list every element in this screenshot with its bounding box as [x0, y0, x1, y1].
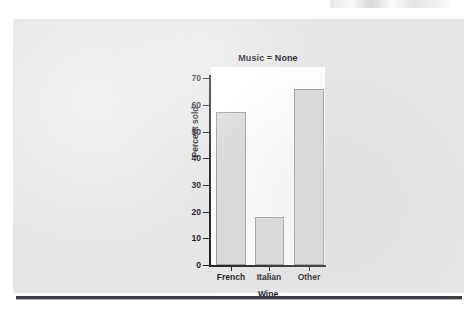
x-tick-mark-italian	[269, 267, 270, 271]
chart-title: Music = None	[211, 53, 325, 63]
horizontal-rule	[16, 296, 462, 299]
y-tick-mark-10	[203, 238, 209, 239]
y-tick-label-0: 0	[177, 261, 201, 270]
y-tick-mark-70	[203, 78, 209, 79]
bar-french	[216, 112, 246, 265]
y-tick-mark-30	[203, 185, 209, 186]
y-tick-label-70: 70	[177, 74, 201, 83]
y-tick-mark-60	[203, 105, 209, 106]
y-axis-line	[209, 75, 211, 267]
y-tick-mark-50	[203, 132, 209, 133]
x-tick-label-other: Other	[289, 272, 329, 282]
y-axis-title: Percent sold	[190, 92, 200, 172]
y-tick-label-10: 10	[177, 234, 201, 243]
x-tick-mark-french	[231, 267, 232, 271]
y-tick-mark-0	[203, 265, 209, 266]
page-edge-artifact	[330, 0, 450, 8]
y-tick-mark-40	[203, 158, 209, 159]
figure-panel: Music = None 0 10 20 30 40 50 60 70 Fren…	[13, 19, 464, 293]
y-tick-mark-20	[203, 212, 209, 213]
x-tick-label-italian: Italian	[249, 272, 289, 282]
bar-italian	[255, 217, 284, 265]
x-tick-mark-other	[309, 267, 310, 271]
y-tick-label-20: 20	[177, 208, 201, 217]
bar-other	[294, 89, 324, 265]
x-tick-label-french: French	[211, 272, 251, 282]
y-tick-label-30: 30	[177, 181, 201, 190]
